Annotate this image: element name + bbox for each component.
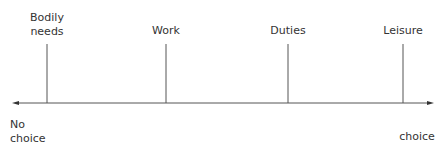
label-leisure: Leisure (375, 24, 431, 38)
label-choice: choice (392, 130, 442, 144)
left-arrow-icon (12, 101, 19, 105)
label-work: Work (141, 24, 191, 38)
label-bodily-needs: Bodily needs (22, 11, 72, 39)
label-duties: Duties (260, 24, 316, 38)
right-arrow-icon (427, 101, 434, 105)
label-no-choice: No choice (10, 118, 50, 146)
